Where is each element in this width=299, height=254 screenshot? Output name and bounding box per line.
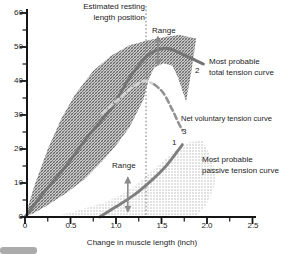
y-tick-label: 0 [0, 212, 23, 221]
x-axis-title: Change in muscle length (inch) [37, 238, 247, 248]
range-label-bottom: Range [112, 161, 136, 171]
y-tick-label: 20 [0, 144, 23, 153]
range-label-top: Range [152, 26, 176, 36]
scan-smudge [0, 247, 37, 254]
x-tick-label: 0 [12, 221, 38, 230]
passive-tension-curve-label: Most probable passive tension curve [202, 155, 279, 176]
net-voluntary-curve-label: Net voluntary tension curve [181, 114, 272, 124]
tension-length-figure: 60 50 40 30 20 10 0 0 0.5 1.0 1.5 2.0 2.… [0, 0, 299, 254]
x-tick-label: 2.5 [240, 221, 266, 230]
curve-number-2: 2 [195, 66, 199, 76]
total-tension-curve-label: Most probable total tension curve [209, 57, 274, 78]
curve-number-1: 1 [172, 138, 176, 148]
y-tick-label: 10 [0, 178, 23, 187]
y-tick-label: 60 [0, 8, 23, 17]
resting-length-annotation: Estimated resting length position [48, 2, 145, 23]
curve-number-3: 3 [182, 127, 186, 137]
resting-length-annotation-line1: Estimated resting [48, 2, 145, 13]
x-tick-label: 1.5 [149, 221, 175, 230]
x-tick-label: 0.5 [58, 221, 84, 230]
range-bands [25, 35, 216, 217]
x-tick-label: 2.0 [194, 221, 220, 230]
x-tick-label: 1.0 [103, 221, 129, 230]
y-tick-label: 30 [0, 110, 23, 119]
resting-length-annotation-line2: length position [48, 13, 145, 24]
y-tick-label: 50 [0, 42, 23, 51]
y-tick-label: 40 [0, 76, 23, 85]
chart-canvas [0, 0, 299, 254]
